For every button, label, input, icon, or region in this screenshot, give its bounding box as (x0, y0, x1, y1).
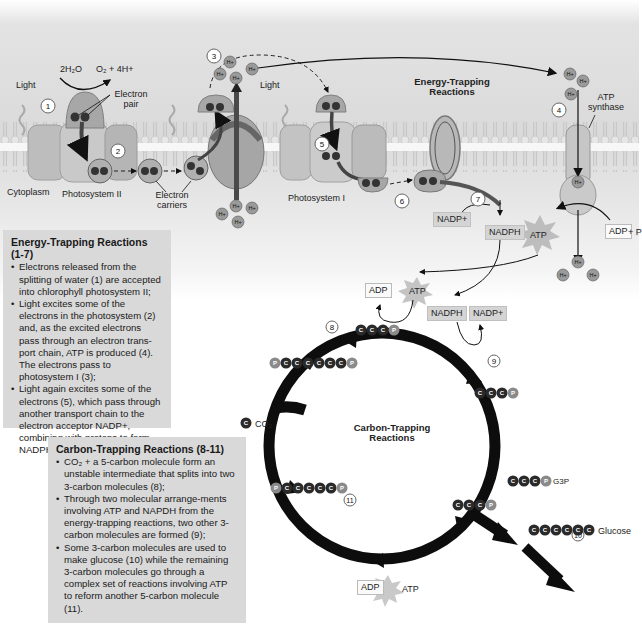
svg-text:C: C (317, 360, 322, 366)
svg-text:P: P (350, 360, 354, 366)
svg-text:C: C (370, 327, 375, 333)
svg-text:C: C (339, 360, 344, 366)
svg-text:C: C (522, 478, 527, 484)
svg-text:C: C (533, 478, 538, 484)
svg-text:C: C (285, 485, 290, 491)
svg-text:C: C (554, 527, 559, 533)
svg-text:C: C (329, 485, 334, 491)
svg-text:P: P (392, 327, 396, 333)
svg-text:C: C (284, 360, 289, 366)
energy-box-heading: Energy-Trapping Reactions (1-7) (11, 236, 163, 260)
carbon-bullet-3: Some 3-carbon molecules are used to make… (56, 542, 238, 615)
svg-text:C: C (328, 360, 333, 366)
svg-text:C: C (381, 327, 386, 333)
energy-trapping-box: Energy-Trapping Reactions (1-7) Electron… (3, 230, 171, 428)
svg-text:C: C (306, 360, 311, 366)
svg-text:P: P (511, 390, 515, 396)
svg-text:P: P (273, 360, 277, 366)
svg-text:C: C (576, 527, 581, 533)
svg-text:C: C (456, 502, 461, 508)
svg-text:C: C (587, 527, 592, 533)
atp-label-3: ATP (402, 584, 419, 594)
co2-label: CO₂ (255, 419, 272, 429)
svg-text:P: P (544, 478, 548, 484)
glucose-label: Glucose (598, 526, 631, 536)
energy-bullet-1: Electrons released from the splitting of… (11, 261, 163, 298)
carbon-box-heading: Carbon-Trapping Reactions (8-11) (56, 443, 238, 455)
svg-text:C: C (543, 527, 548, 533)
svg-text:C: C (295, 360, 300, 366)
svg-text:C: C (244, 420, 249, 426)
g3p-label: G3P (553, 477, 569, 487)
carbon-trapping-title: Carbon-Trapping Reactions (352, 423, 432, 443)
svg-text:C: C (478, 502, 483, 508)
svg-text:C: C (500, 390, 505, 396)
svg-text:C: C (307, 485, 312, 491)
svg-text:C: C (511, 478, 516, 484)
carbon-bullet-1: CO₂ + a 5-carbon molecule form an unstab… (56, 456, 238, 493)
carbon-trapping-box: Carbon-Trapping Reactions (8-11) CO₂ + a… (48, 437, 246, 623)
energy-bullet-2: Light excites some of the electrons in t… (11, 298, 163, 383)
svg-text:C: C (532, 527, 537, 533)
svg-text:C: C (296, 485, 301, 491)
svg-text:C: C (318, 485, 323, 491)
svg-text:P: P (489, 502, 493, 508)
carbon-bullet-2: Through two molecular arrange-ments invo… (56, 493, 238, 542)
svg-text:C: C (489, 390, 494, 396)
adp-tag-3: ADP (357, 580, 384, 595)
svg-text:C: C (565, 527, 570, 533)
svg-text:P: P (340, 485, 344, 491)
svg-text:P: P (274, 485, 278, 491)
svg-text:C: C (478, 390, 483, 396)
svg-text:C: C (359, 327, 364, 333)
svg-text:C: C (467, 502, 472, 508)
